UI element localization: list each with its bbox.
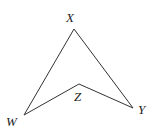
label-w: W <box>6 114 18 128</box>
label-z: Z <box>74 89 82 104</box>
diagram-canvas: X Y Z W <box>0 0 155 128</box>
label-y: Y <box>138 102 147 117</box>
label-x: X <box>65 10 75 25</box>
quadrilateral-figure: X Y Z W <box>0 0 155 128</box>
